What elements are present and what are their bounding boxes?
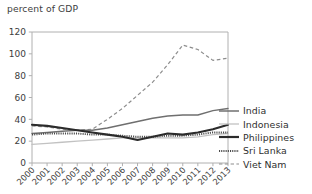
- chart-figure: percent of GDP 020406080100120 200020012…: [0, 0, 312, 194]
- legend-item-philippines[interactable]: Philippines: [218, 131, 310, 144]
- legend-item-india[interactable]: India: [218, 104, 310, 117]
- legend-line-swatch-icon: [218, 118, 240, 130]
- series-line-philippines: [32, 125, 228, 140]
- legend: IndiaIndonesiaPhilippinesSri LankaViet N…: [218, 104, 310, 171]
- legend-line-swatch-icon: [218, 145, 240, 157]
- legend-item-label: Philippines: [240, 132, 294, 143]
- y-axis-tick-label: 40: [15, 115, 27, 125]
- chart-svg: 020406080100120 200020012002200320042005…: [0, 0, 240, 172]
- legend-item-indonesia[interactable]: Indonesia: [218, 117, 310, 130]
- legend-item-label: India: [240, 105, 266, 116]
- legend-line-swatch-icon: [218, 105, 240, 117]
- legend-item-label: Indonesia: [240, 119, 289, 130]
- legend-item-label: Sri Lanka: [240, 145, 287, 156]
- series-line-viet-nam: [32, 45, 228, 130]
- series-line-india: [32, 108, 228, 133]
- y-axis-tick-label: 120: [9, 27, 26, 37]
- legend-item-viet-nam[interactable]: Viet Nam: [218, 158, 310, 171]
- y-axis-tick-label: 80: [15, 71, 27, 81]
- y-axis: 020406080100120: [9, 27, 228, 168]
- legend-line-swatch-icon: [218, 158, 240, 170]
- legend-line-swatch-icon: [218, 131, 240, 143]
- legend-item-label: Viet Nam: [240, 159, 287, 170]
- y-axis-tick-label: 100: [9, 49, 26, 59]
- y-axis-tick-label: 0: [20, 158, 26, 168]
- y-axis-tick-label: 60: [15, 93, 27, 103]
- legend-item-sri-lanka[interactable]: Sri Lanka: [218, 144, 310, 157]
- x-axis: 2000200120022003200420052006200720082009…: [15, 163, 233, 187]
- y-axis-tick-label: 20: [15, 136, 27, 146]
- series-lines: [32, 45, 228, 144]
- plot-area: 020406080100120 200020012002200320042005…: [0, 0, 240, 172]
